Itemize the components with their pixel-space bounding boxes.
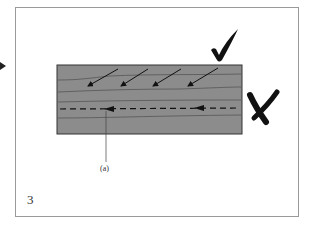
check-mark-icon	[211, 29, 238, 62]
page-number: 3	[27, 192, 34, 208]
wood-block	[57, 65, 242, 134]
wood-grain-diagram	[0, 0, 314, 228]
x-mark-icon	[250, 92, 277, 122]
label-a: (a)	[100, 164, 109, 173]
